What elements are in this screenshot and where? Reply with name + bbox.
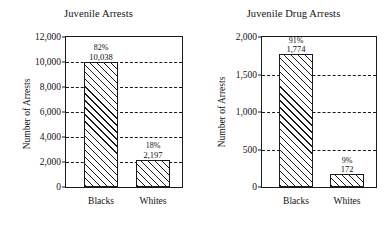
y-tick-mark [62, 37, 66, 38]
y-tick-label: 1,000 [236, 107, 257, 117]
bar-annotation: 9% 172 [341, 157, 354, 174]
y-tick-label: 0 [56, 182, 61, 192]
y-axis-label: Number of Arrests [22, 79, 32, 150]
bar-blacks[interactable]: 82% 10,038 [84, 62, 118, 187]
y-tick-label: 4,000 [40, 132, 61, 142]
x-tick-label-blacks: Blacks [88, 196, 114, 206]
y-tick-label: 2,000 [236, 32, 257, 42]
y-tick-mark [62, 187, 66, 188]
y-tick-label: 12,000 [35, 32, 61, 42]
chart-title: Juvenile Drug Arrests [197, 8, 386, 19]
y-tick-label: 6,000 [40, 107, 61, 117]
y-tick-label: 2,000 [40, 157, 61, 167]
chart-panel-juvenile-arrests: Juvenile Arrests Number of Arrests 12,00… [0, 0, 193, 225]
y-tick-label: 1,500 [236, 70, 257, 80]
y-tick-label: 0 [252, 182, 257, 192]
bar-whites[interactable]: 18% 2,197 [136, 160, 170, 187]
chart-title: Juvenile Arrests [2, 8, 195, 19]
y-tick-label: 8,000 [40, 82, 61, 92]
plot-area: 12,000 10,000 8,000 6,000 4,000 2,000 0 [65, 36, 183, 188]
bar-annotation: 82% 10,038 [89, 44, 112, 61]
figure: Juvenile Arrests Number of Arrests 12,00… [0, 0, 386, 225]
x-tick-label-blacks: Blacks [283, 196, 309, 206]
bar-annotation: 18% 2,197 [143, 142, 162, 159]
y-tick-mark [258, 187, 262, 188]
bar-value-label: 172 [341, 165, 354, 174]
y-tick-label: 500 [243, 145, 257, 155]
x-tick-label-whites: Whites [334, 196, 361, 206]
y-tick-mark [258, 37, 262, 38]
bar-whites[interactable]: 9% 172 [330, 174, 364, 187]
chart-panel-juvenile-drug-arrests: Juvenile Drug Arrests Number of Arrests … [193, 0, 386, 225]
bar-value-label: 10,038 [89, 53, 112, 62]
plot-area: 2,000 1,500 1,000 500 0 91% 1,774 [261, 36, 377, 188]
y-axis-label: Number of Arrests [217, 77, 227, 148]
bar-value-label: 1,774 [286, 45, 305, 54]
bar-annotation: 91% 1,774 [286, 37, 305, 54]
y-tick-label: 10,000 [35, 57, 61, 67]
x-tick-label-whites: Whites [140, 196, 167, 206]
bar-blacks[interactable]: 91% 1,774 [279, 54, 313, 187]
bar-value-label: 2,197 [143, 151, 162, 160]
